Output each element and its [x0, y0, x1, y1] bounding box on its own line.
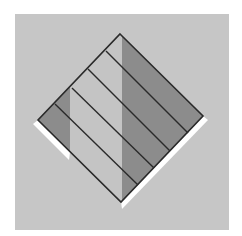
diagram-canvas	[0, 0, 242, 236]
diamond-diagram	[0, 0, 242, 236]
